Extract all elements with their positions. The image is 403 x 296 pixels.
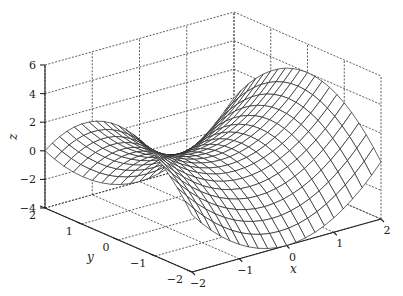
y-tick xyxy=(150,254,155,256)
z-tick-label: 2 xyxy=(29,116,36,129)
y-tick-label: 2 xyxy=(29,209,36,222)
y-tick-label: −1 xyxy=(130,257,146,270)
x-tick xyxy=(334,232,337,235)
x-tick-label: −1 xyxy=(237,264,253,277)
surface-mesh xyxy=(45,68,381,248)
x-tick-label: 1 xyxy=(336,237,343,250)
x-tick xyxy=(287,246,290,249)
y-tick xyxy=(114,238,119,240)
y-axis-label: y xyxy=(86,250,94,264)
x-axis-label: x xyxy=(290,262,297,276)
z-axis-label: z xyxy=(6,133,20,141)
x-tick-label: −2 xyxy=(190,277,206,290)
z-tick-label: 0 xyxy=(29,145,36,158)
y-tick xyxy=(77,222,82,224)
x-tick xyxy=(192,272,195,275)
z-tick-label: 6 xyxy=(29,59,36,72)
x-tick-label: 2 xyxy=(384,224,391,237)
y-tick-label: 0 xyxy=(103,241,110,254)
x-tick xyxy=(381,219,384,222)
z-tick-label: 4 xyxy=(29,88,36,101)
z-tick-label: −2 xyxy=(20,173,36,186)
x-tick xyxy=(239,259,242,262)
y-tick-label: 1 xyxy=(66,225,73,238)
y-tick xyxy=(187,270,192,272)
y-tick-label: −2 xyxy=(167,273,183,286)
surface-plot: −4−20246−2−1012−2−1012 x y z xyxy=(0,0,403,296)
